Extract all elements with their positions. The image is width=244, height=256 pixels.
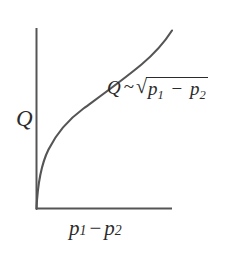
annotation-p1: p xyxy=(148,78,158,99)
square-root-curve-figure: Q p1 − p2 Q ~ √ p1 − p2 xyxy=(0,0,244,256)
x-axis-label-p2: p xyxy=(104,218,115,239)
x-axis-label-p1-subscript: 1 xyxy=(80,224,87,238)
curve-annotation: Q ~ √ p1 − p2 xyxy=(107,77,208,101)
plot-canvas xyxy=(0,0,244,256)
x-axis-label-p1: p xyxy=(69,218,80,239)
x-axis-label-p2-subscript: 2 xyxy=(115,224,122,238)
annotation-tilde: ~ xyxy=(121,77,136,96)
y-axis-label-text: Q xyxy=(16,106,33,131)
y-axis-label: Q xyxy=(16,107,33,130)
annotation-q: Q xyxy=(107,78,121,97)
annotation-p2-subscript: 2 xyxy=(200,88,206,102)
x-axis-label: p1 − p2 xyxy=(69,218,122,239)
annotation-radicand: p1 − p2 xyxy=(146,77,208,101)
annotation-radical-group: √ p1 − p2 xyxy=(136,77,208,101)
annotation-minus: − xyxy=(169,78,186,99)
sqrt-curve xyxy=(37,31,173,210)
annotation-p2: p xyxy=(190,78,200,99)
annotation-p1-subscript: 1 xyxy=(158,88,164,102)
x-axis-label-minus: − xyxy=(86,218,104,239)
